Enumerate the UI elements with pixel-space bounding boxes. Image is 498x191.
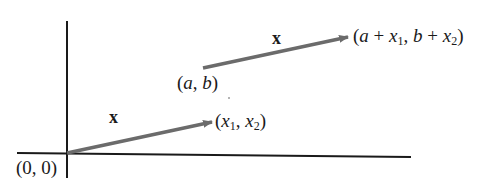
lower-head-label: (x1, x2) [215,110,266,134]
upper-tail-label: (a, b) [177,72,218,94]
stray-dot [228,97,230,99]
vector-x-from-origin [67,122,212,153]
upper-vector-label: x [272,28,281,49]
lower-vector-label: x [109,107,118,128]
x-axis [17,153,411,157]
vector-diagram: (0, 0) x x (x1, x2) (a, b) (a + x1, b + … [0,0,498,191]
upper-head-label: (a + x1, b + x2) [353,25,463,49]
origin-label: (0, 0) [16,157,57,179]
